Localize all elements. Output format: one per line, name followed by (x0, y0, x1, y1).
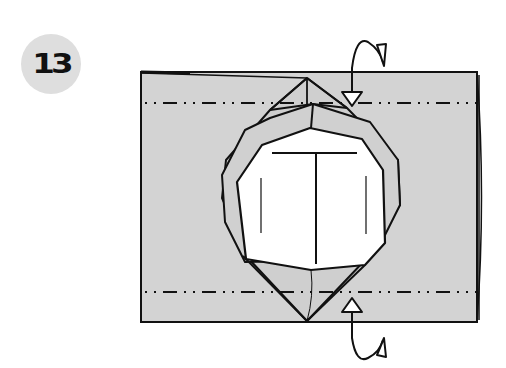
inner-opening (237, 128, 385, 270)
origami-diagram (0, 0, 506, 368)
